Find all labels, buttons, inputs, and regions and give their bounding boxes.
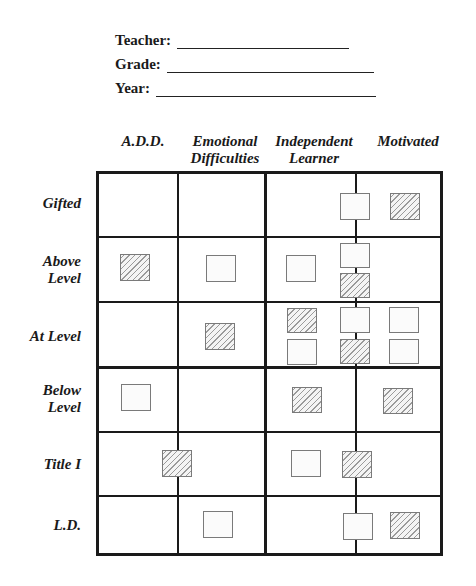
student-box-plain[interactable] [291, 450, 321, 477]
row-label-line2: Level [43, 270, 81, 287]
student-box-plain[interactable] [340, 193, 370, 220]
student-box-plain[interactable] [206, 255, 236, 282]
student-box-hatched[interactable] [342, 451, 372, 478]
student-box-hatched[interactable] [205, 323, 235, 350]
row-label-ld: L.D. [54, 517, 82, 534]
row-label-line2: Level [43, 399, 81, 416]
student-box-hatched[interactable] [390, 193, 420, 220]
student-box-hatched[interactable] [390, 512, 420, 539]
student-box-plain[interactable] [121, 384, 151, 411]
student-box-plain[interactable] [287, 339, 317, 365]
grid-hline-2 [96, 301, 443, 303]
row-label-line1: Above [43, 253, 81, 270]
row-label-below-level: Below Level [43, 382, 81, 416]
row-label-title-i: Title I [44, 456, 81, 473]
grid-hline-3-thick [96, 366, 443, 369]
student-box-plain[interactable] [343, 513, 373, 540]
grade-label: Grade: [115, 55, 161, 73]
student-box-plain[interactable] [389, 339, 419, 364]
row-label-at-level: At Level [30, 328, 81, 345]
column-header-line1: A.D.D. [108, 133, 178, 150]
student-box-hatched[interactable] [340, 273, 370, 298]
teacher-label: Teacher: [115, 31, 171, 49]
year-field: Year: [115, 79, 376, 97]
student-box-hatched[interactable] [120, 254, 150, 281]
column-header-line1: Emotional [180, 133, 270, 150]
grade-blank-line[interactable] [167, 58, 374, 73]
year-blank-line[interactable] [156, 82, 376, 97]
teacher-blank-line[interactable] [177, 34, 349, 49]
column-header-independent: Independent Learner [268, 133, 360, 167]
column-header-line1: Motivated [366, 133, 450, 150]
teacher-field: Teacher: [115, 31, 349, 49]
row-label-gifted: Gifted [43, 195, 81, 212]
student-box-hatched[interactable] [287, 308, 317, 333]
grid-hline-4 [96, 431, 443, 433]
student-box-plain[interactable] [340, 307, 370, 333]
student-box-hatched[interactable] [162, 450, 192, 477]
student-box-plain[interactable] [203, 511, 233, 538]
column-header-line2: Learner [268, 150, 360, 167]
row-label-line1: L.D. [54, 517, 82, 534]
column-header-line1: Independent [268, 133, 360, 150]
student-box-plain[interactable] [389, 307, 419, 333]
column-header-line2: Difficulties [180, 150, 270, 167]
student-box-hatched[interactable] [292, 387, 322, 413]
student-box-hatched[interactable] [340, 339, 370, 364]
row-label-line1: Gifted [43, 195, 81, 212]
grid-vline-center [264, 171, 267, 556]
grid-hline-1 [96, 236, 443, 238]
year-label: Year: [115, 79, 150, 97]
column-header-emotional: Emotional Difficulties [180, 133, 270, 167]
column-header-add: A.D.D. [108, 133, 178, 150]
grid-hline-5 [96, 495, 443, 497]
student-box-hatched[interactable] [383, 388, 413, 414]
grid-vline-add-emotional [177, 171, 179, 556]
row-label-line1: Below [43, 382, 81, 399]
grade-field: Grade: [115, 55, 374, 73]
row-label-line1: At Level [30, 328, 81, 345]
row-label-above-level: Above Level [43, 253, 81, 287]
row-label-line1: Title I [44, 456, 81, 473]
column-header-motivated: Motivated [366, 133, 450, 150]
student-box-plain[interactable] [286, 255, 316, 282]
student-box-plain[interactable] [340, 243, 370, 268]
